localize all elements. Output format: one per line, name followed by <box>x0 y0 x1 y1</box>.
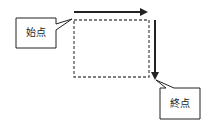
dashed-selection-rect <box>74 20 149 77</box>
start-label: 始点 <box>16 27 56 39</box>
end-label: 終点 <box>160 98 200 110</box>
